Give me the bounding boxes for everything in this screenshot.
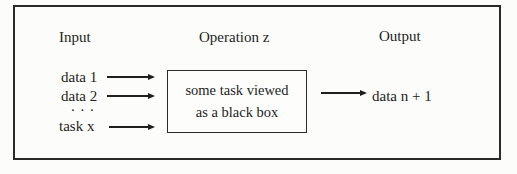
operation-column-header: Operation z [199,28,269,46]
figure-canvas: Input Operation z Output data 1 data 2 .… [0,0,517,174]
black-box-text-line2: as a black box [196,105,279,120]
input-arrow-icon-2 [107,95,149,97]
input-arrow-icon-1 [107,76,149,78]
input-item-label-data1: data 1 [61,70,97,85]
black-box: some task viewed as a black box [167,70,307,133]
input-item-label-taskx: task x [59,119,94,134]
output-data-label: data n + 1 [372,89,432,104]
output-arrow-icon [321,92,361,94]
black-box-text-line1: some task viewed [185,83,288,98]
input-column-header: Input [59,28,91,46]
input-arrow-icon-3 [109,126,149,128]
output-column-header: Output [379,27,421,45]
input-ellipsis-label: . . . [71,99,95,114]
